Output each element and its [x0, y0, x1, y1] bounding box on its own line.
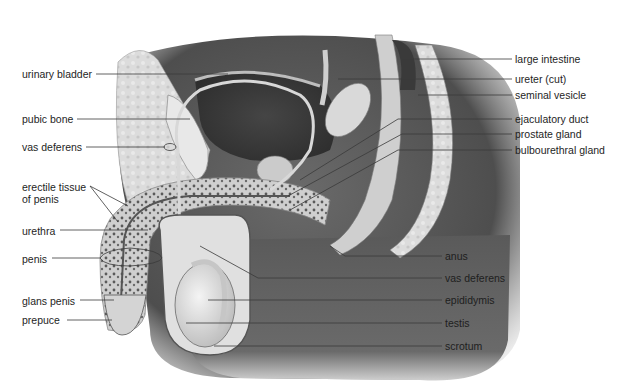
label-large-intestine: large intestine	[515, 53, 580, 65]
label-anus: anus	[445, 250, 468, 262]
label-urethra: urethra	[22, 225, 55, 237]
label-ureter-cut: ureter (cut)	[515, 73, 566, 85]
leader-vas-deferens	[200, 246, 442, 278]
label-ejaculatory-duct: ejaculatory duct	[515, 113, 589, 125]
label-prostate-gland: prostate gland	[515, 128, 582, 140]
label-testis: testis	[445, 317, 470, 329]
label-prepuce: prepuce	[22, 314, 60, 326]
label-glans-penis: glans penis	[22, 295, 75, 307]
label-erectile-tissue-of-penis: erectile tissue of penis	[22, 181, 86, 205]
anatomy-diagram: urinary bladderpubic bonevas deferensere…	[0, 0, 628, 391]
label-penis: penis	[22, 253, 47, 265]
leader-ejaculatory-duct	[300, 119, 512, 180]
leader-vas-deferens	[86, 144, 176, 151]
label-epididymis: epididymis	[445, 294, 495, 306]
leader-bulbourethral-gland	[290, 150, 512, 210]
label-vas-deferens: vas deferens	[22, 141, 82, 153]
label-urinary-bladder: urinary bladder	[22, 68, 92, 80]
leader-prostate-gland	[288, 134, 512, 196]
label-pubic-bone: pubic bone	[22, 113, 73, 125]
label-scrotum: scrotum	[445, 340, 482, 352]
label-vas-deferens: vas deferens	[445, 272, 505, 284]
leader-penis	[52, 248, 162, 266]
label-seminal-vesicle: seminal vesicle	[515, 89, 586, 101]
leader-erectile-tissue-of-penis	[90, 186, 128, 222]
label-bulbourethral-gland: bulbourethral gland	[515, 144, 605, 156]
leader-anus	[330, 246, 442, 256]
